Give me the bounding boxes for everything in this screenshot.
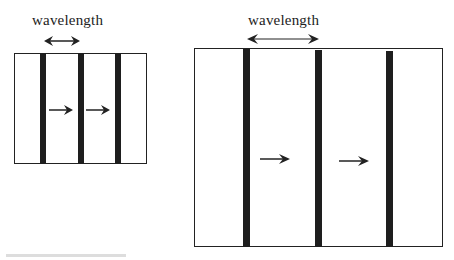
left-wavelength-double-arrow-icon (44, 36, 80, 46)
right-propagation-arrow-icon-2 (339, 156, 369, 166)
right-propagation-arrow-icon-1 (260, 154, 290, 164)
right-wavefront-3 (386, 51, 393, 247)
left-wavefront-1 (40, 53, 46, 164)
faint-caption-remnant (6, 254, 126, 257)
left-wavelength-label: wavelength (32, 12, 103, 29)
right-wavefront-1 (243, 49, 250, 247)
left-wavefront-3 (115, 53, 121, 164)
left-propagation-arrow-icon-2 (86, 105, 110, 115)
right-wavelength-double-arrow-icon (247, 34, 319, 44)
right-wavelength-label: wavelength (248, 12, 319, 29)
left-propagation-arrow-icon-1 (49, 105, 73, 115)
left-wavefront-2 (78, 53, 84, 164)
right-wavefront-2 (315, 50, 322, 247)
